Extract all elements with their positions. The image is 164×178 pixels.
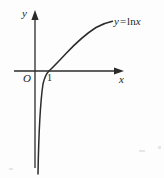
curve-equation-label: y=lnx [114,16,141,27]
y-axis-arrow-icon [31,10,38,20]
scan-artifact [139,150,145,152]
scan-artifact [158,146,161,149]
logarithm-graph-figure: y x O 1 y=lnx [0,0,164,178]
y-axis-label: y [22,8,27,19]
equation-operator: = [119,15,127,27]
origin-label: O [23,73,31,84]
x-intercept-tick-label: 1 [47,73,52,83]
equation-function-name: ln [127,15,136,27]
x-axis-label: x [119,74,124,85]
ln-curve-path [38,21,113,174]
equation-argument: x [136,15,141,27]
scan-artifact [9,168,13,170]
